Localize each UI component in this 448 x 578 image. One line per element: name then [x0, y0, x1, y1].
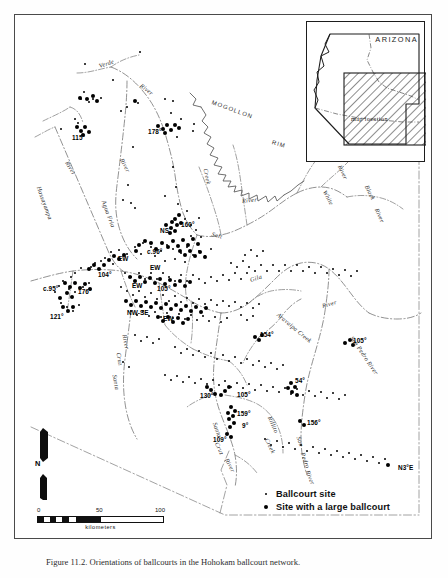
- site-orientation-label: EW: [163, 315, 174, 322]
- large-dot-icon: [261, 505, 271, 510]
- site-orientation-label: NW-SE: [127, 309, 149, 316]
- scale-tick-labels: 0 50 100: [37, 507, 164, 516]
- site-orientation-label: N3°E: [398, 464, 413, 471]
- figure-frame: .riv{fill:none;stroke:#6e6e6e;stroke-wid…: [14, 14, 432, 539]
- inset-location-map: ARIZONA map location: [306, 21, 425, 162]
- site-orientation-label: 176°: [78, 288, 92, 295]
- site-orientation-label: 104°: [98, 271, 112, 278]
- map-legend: Ballcourt site Site with a large ballcou…: [261, 489, 390, 515]
- site-orientation-label: 154°: [260, 331, 274, 338]
- scale-tick-0: 0: [37, 507, 40, 513]
- scale-tick-50: 50: [96, 507, 103, 513]
- site-orientation-label: 54°: [295, 377, 305, 384]
- inset-state-label: ARIZONA: [375, 35, 418, 44]
- scale-units-label: kilometers: [37, 524, 164, 530]
- site-orientation-label: 178°: [148, 128, 162, 135]
- inset-map-location-label: map location: [351, 115, 388, 122]
- site-orientation-label: 109°: [213, 436, 227, 443]
- north-arrow-label: N: [35, 459, 40, 468]
- scale-bar-graphic: [37, 516, 164, 523]
- site-orientation-label: 105°: [353, 337, 367, 344]
- legend-label-large-ballcourt: Site with a large ballcourt: [276, 502, 390, 512]
- site-orientation-label: 9°: [242, 422, 248, 429]
- site-orientation-label: EW: [118, 255, 129, 262]
- scale-bar: 0 50 100 kilometers: [37, 507, 164, 530]
- site-orientation-label: 121°: [50, 313, 64, 320]
- site-orientation-label: 105°: [157, 285, 171, 292]
- figure-caption: Figure 11.2. Orientations of ballcourts …: [46, 556, 406, 576]
- site-orientation-label: c.95°: [43, 285, 59, 292]
- legend-label-ballcourt-site: Ballcourt site: [276, 489, 336, 499]
- site-orientation-label: c.96°: [147, 248, 163, 255]
- north-arrow-icon: [37, 428, 63, 500]
- legend-item-ballcourt-site: Ballcourt site: [261, 489, 390, 499]
- site-orientation-label: 130°: [200, 392, 214, 399]
- site-orientation-label: EW: [150, 264, 161, 271]
- small-dot-icon: [261, 493, 271, 495]
- site-orientation-label: 159°: [237, 410, 251, 417]
- site-orientation-label: 156°: [307, 419, 321, 426]
- site-orientation-label: EW: [132, 282, 143, 289]
- scale-tick-100: 100: [155, 507, 165, 513]
- site-orientation-label: 115°: [72, 134, 85, 141]
- site-orientation-label: NS: [160, 227, 169, 234]
- legend-item-large-ballcourt: Site with a large ballcourt: [261, 502, 390, 512]
- site-orientation-label: 105°: [237, 391, 251, 398]
- figure-page: .riv{fill:none;stroke:#6e6e6e;stroke-wid…: [0, 0, 448, 578]
- site-orientation-label: 160°: [181, 221, 195, 228]
